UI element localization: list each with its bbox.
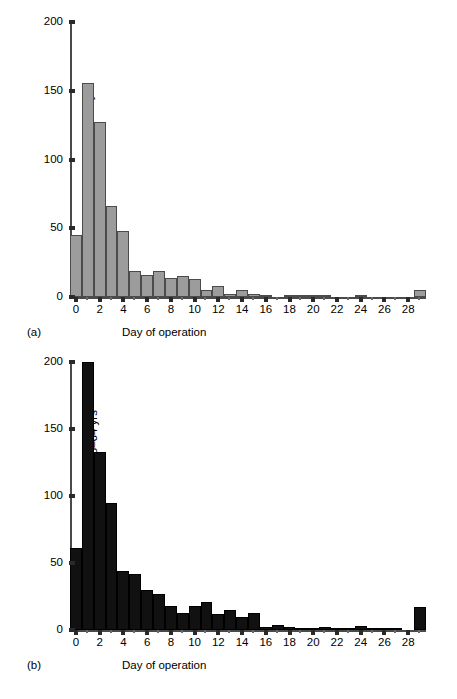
x-tick [264, 630, 268, 635]
y-tick-label: 0 [57, 624, 63, 636]
y-tick-label: 200 [44, 356, 63, 368]
x-tick [181, 297, 183, 300]
x-tick-label: 16 [259, 304, 272, 316]
bar [129, 271, 141, 297]
x-tick-label: 10 [188, 304, 201, 316]
x-tick [133, 630, 135, 633]
x-tick-label: 12 [212, 637, 225, 649]
x-tick [394, 630, 396, 633]
x-tick [98, 297, 102, 302]
x-tick [288, 630, 292, 635]
bar [295, 295, 307, 297]
y-tick [69, 89, 75, 93]
bar [82, 362, 94, 630]
bar [94, 452, 106, 630]
plot-area-b: 050100150200 0246810121416182022242628 [70, 362, 426, 630]
x-tick [157, 297, 159, 300]
x-tick-label: 2 [96, 304, 102, 316]
bar [248, 613, 260, 630]
x-tick-label: 24 [354, 304, 367, 316]
y-tick [69, 360, 75, 364]
bar [212, 614, 224, 630]
bar [129, 574, 141, 630]
x-tick-label: 18 [283, 637, 296, 649]
bar [236, 290, 248, 297]
x-tick [323, 630, 325, 633]
bar [82, 83, 94, 298]
bar [153, 271, 165, 297]
bar [94, 122, 106, 297]
x-tick [74, 297, 78, 302]
x-axis-title-b: Day of operation [122, 660, 206, 672]
x-tick [288, 297, 292, 302]
panel-tag-b: (b) [27, 660, 41, 672]
x-tick-label: 20 [307, 304, 320, 316]
x-tick [323, 297, 325, 300]
x-tick-label: 20 [307, 637, 320, 649]
x-tick-label: 6 [144, 304, 150, 316]
y-tick-label: 50 [50, 223, 63, 235]
x-tick-label: 18 [283, 304, 296, 316]
x-tick [110, 630, 112, 633]
x-tick [157, 630, 159, 633]
x-tick [276, 630, 278, 633]
y-tick [69, 494, 75, 498]
x-tick [418, 630, 420, 633]
y-tick-label: 0 [57, 291, 63, 303]
x-tick [394, 297, 396, 300]
x-tick [299, 630, 301, 633]
bar [212, 286, 224, 297]
bar [236, 617, 248, 630]
bar [165, 278, 177, 297]
y-tick-label: 50 [50, 557, 63, 569]
x-tick-label: 26 [378, 304, 391, 316]
x-tick [133, 297, 135, 300]
y-tick [69, 561, 75, 565]
x-tick [335, 630, 339, 635]
bar [224, 294, 236, 297]
y-tick-label: 150 [44, 85, 63, 97]
bar [248, 294, 260, 297]
x-tick-label: 14 [236, 637, 249, 649]
x-tick [371, 630, 373, 633]
x-tick [359, 630, 363, 635]
x-tick [240, 297, 244, 302]
y-tick-label: 100 [44, 154, 63, 166]
x-tick [347, 297, 349, 300]
plot-area-a: 050100150200 0246810121416182022242628 [70, 22, 426, 297]
x-tick [86, 630, 88, 633]
bar [177, 276, 189, 297]
bar [141, 590, 153, 630]
x-tick-label: 26 [378, 637, 391, 649]
y-tick [69, 427, 75, 431]
x-tick [216, 297, 220, 302]
x-tick-label: 24 [354, 637, 367, 649]
x-tick-label: 22 [331, 304, 344, 316]
x-tick [169, 297, 173, 302]
x-tick [240, 630, 244, 635]
x-tick [145, 630, 149, 635]
x-tick-label: 4 [120, 304, 126, 316]
x-tick [359, 297, 363, 302]
bar [189, 279, 201, 297]
x-tick [204, 630, 206, 633]
x-tick [74, 630, 78, 635]
x-tick [193, 297, 197, 302]
x-tick-label: 16 [259, 637, 272, 649]
y-tick [69, 158, 75, 162]
x-tick-label: 28 [402, 304, 415, 316]
y-tick [69, 226, 75, 230]
bar-series-a [70, 22, 426, 297]
bar [153, 594, 165, 630]
x-tick [252, 297, 254, 300]
bar [165, 606, 177, 630]
x-tick [311, 630, 315, 635]
x-tick [110, 297, 112, 300]
x-tick [335, 297, 339, 302]
bar [201, 290, 213, 297]
y-tick-label: 200 [44, 16, 63, 28]
x-tick [406, 630, 410, 635]
x-tick [169, 630, 173, 635]
bar-series-b [70, 362, 426, 630]
x-tick [418, 297, 420, 300]
